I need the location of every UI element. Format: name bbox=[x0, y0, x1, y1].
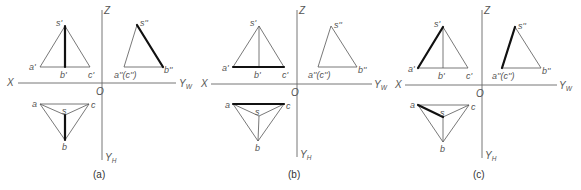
top-view: a c s b bbox=[32, 99, 96, 152]
caption: (b) bbox=[288, 169, 300, 180]
side-view: s'' a''(c'') b'' bbox=[492, 21, 551, 81]
label-b-double-prime: b'' bbox=[542, 66, 551, 76]
yw-axis-label: YW bbox=[179, 78, 193, 90]
highlighted-edge bbox=[502, 27, 515, 68]
label-b-prime: b' bbox=[438, 71, 445, 81]
label-c: c bbox=[286, 101, 291, 111]
label-a-c-double-prime: a''(c'') bbox=[492, 71, 514, 81]
label-b: b bbox=[62, 142, 67, 152]
yh-axis-label: YH bbox=[300, 149, 312, 161]
label-s-prime: s' bbox=[250, 18, 257, 28]
label-b-double-prime: b'' bbox=[358, 65, 367, 75]
side-view: s'' a''(c'') b'' bbox=[114, 18, 173, 80]
z-axis-label: Z bbox=[483, 5, 491, 16]
top-view: a c s b bbox=[225, 100, 291, 153]
label-s-prime: s' bbox=[56, 18, 63, 28]
yw-axis-label: YW bbox=[559, 80, 573, 92]
z-axis-label: Z bbox=[298, 5, 306, 16]
label-s: s bbox=[255, 107, 260, 117]
label-s-double-prime: s'' bbox=[140, 18, 148, 28]
origin-label: O bbox=[96, 86, 104, 97]
x-axis-label: X bbox=[200, 78, 208, 89]
origin-label: O bbox=[291, 87, 299, 98]
label-a-prime: a' bbox=[408, 64, 415, 74]
label-b: b bbox=[255, 143, 260, 153]
front-view: s' a' b' c' bbox=[222, 18, 289, 80]
label-a: a bbox=[410, 100, 415, 110]
orthographic-projection-figure: X Z O YW YH s' a' b' c' s'' a''(c'') b'' bbox=[0, 0, 581, 190]
highlighted-edge bbox=[418, 27, 443, 68]
label-c-prime: c' bbox=[88, 70, 95, 80]
label-c: c bbox=[471, 102, 476, 112]
label-s-prime: s' bbox=[434, 19, 441, 29]
label-b-prime: b' bbox=[254, 70, 261, 80]
panel-a: X Z O YW YH s' a' b' c' s'' a''(c'') b'' bbox=[6, 5, 193, 180]
label-c-prime: c' bbox=[466, 71, 473, 81]
label-c: c bbox=[91, 100, 96, 110]
label-a: a bbox=[225, 100, 230, 110]
label-b-prime: b' bbox=[60, 70, 67, 80]
yh-axis-label: YH bbox=[105, 152, 117, 164]
origin-label: O bbox=[476, 88, 484, 99]
caption: (a) bbox=[93, 169, 105, 180]
label-a-prime: a' bbox=[222, 63, 229, 73]
side-view: s'' a''(c'') b'' bbox=[308, 20, 367, 80]
label-c-prime: c' bbox=[282, 70, 289, 80]
front-view: s' a' b' c' bbox=[408, 19, 473, 81]
label-a: a bbox=[32, 99, 37, 109]
label-b-double-prime: b'' bbox=[164, 65, 173, 75]
yw-axis-label: YW bbox=[374, 79, 388, 91]
label-a-c-double-prime: a''(c'') bbox=[114, 70, 136, 80]
x-axis-label: X bbox=[394, 79, 402, 90]
label-s: s bbox=[440, 108, 445, 118]
top-view: a c s b bbox=[410, 100, 476, 154]
highlighted-edge bbox=[137, 25, 163, 67]
caption: (c) bbox=[473, 169, 485, 180]
x-axis-label: X bbox=[6, 77, 14, 88]
label-s-double-prime: s'' bbox=[334, 20, 342, 30]
label-a-c-double-prime: a''(c'') bbox=[308, 70, 330, 80]
z-axis-label: Z bbox=[103, 5, 111, 16]
label-s-double-prime: s'' bbox=[518, 21, 526, 31]
yh-axis-label: YH bbox=[485, 150, 497, 162]
label-b: b bbox=[440, 144, 445, 154]
panel-c: X Z O YW YH s' a' b' c' s'' a''(c'') b''… bbox=[394, 5, 573, 180]
label-a-prime: a' bbox=[29, 62, 36, 72]
label-s: s bbox=[62, 106, 67, 116]
panel-b: X Z O YW YH s' a' b' c' s'' a''(c'') b''… bbox=[200, 5, 388, 180]
front-view: s' a' b' c' bbox=[29, 18, 95, 80]
